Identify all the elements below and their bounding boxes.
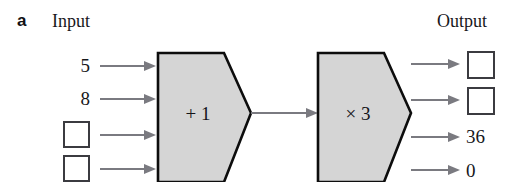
diagram-vector-layer: + 1 × 3 — [0, 0, 518, 182]
output-arrow-3 — [411, 132, 460, 142]
machine-add-one-label: + 1 — [186, 103, 211, 124]
input-arrow-1 — [100, 61, 156, 71]
machine-connector-arrow — [251, 108, 318, 118]
machine-times-three-label: × 3 — [346, 103, 371, 124]
output-arrow-1 — [411, 59, 460, 69]
output-arrow-2 — [411, 95, 460, 105]
machine-add-one[interactable]: + 1 — [158, 53, 251, 182]
machine-times-three[interactable]: × 3 — [318, 53, 411, 182]
input-arrow-3 — [100, 130, 156, 140]
input-arrow-4 — [100, 164, 156, 174]
input-arrow-2 — [100, 94, 156, 104]
output-arrow-4 — [411, 165, 460, 175]
function-machine-diagram: a Input Output 5 8 36 0 + 1 — [0, 0, 518, 182]
